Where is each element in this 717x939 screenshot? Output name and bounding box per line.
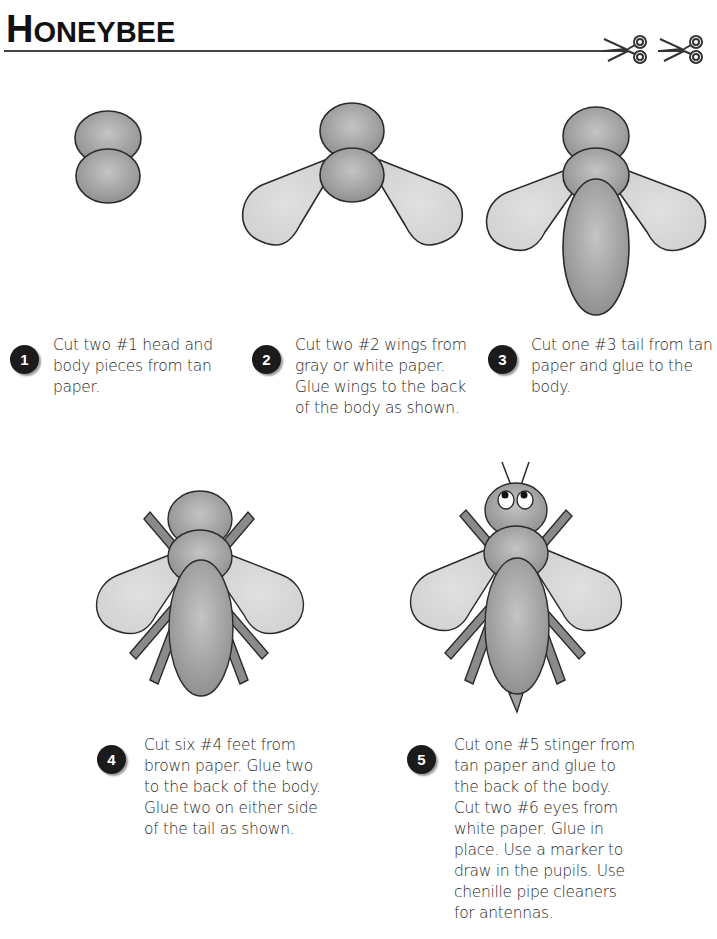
- stinger: [509, 693, 523, 712]
- step-instruction: Cut six #4 feet from brown paper. Glue t…: [144, 735, 321, 840]
- right-wing: [375, 160, 462, 245]
- tail-piece: [169, 560, 233, 696]
- step-number-badge: 3: [488, 345, 517, 374]
- step-3: 3 Cut one #3 tail from tan paper and glu…: [488, 335, 713, 398]
- step-number-badge: 4: [97, 745, 126, 774]
- step-instruction: Cut one #5 stinger from tan paper and gl…: [454, 735, 635, 924]
- figure-step-5: [400, 450, 640, 720]
- step-2: 2 Cut two #2 wings from gray or white pa…: [252, 335, 466, 419]
- page-title: HONEYBEE: [6, 8, 175, 51]
- title-rule: [4, 50, 604, 52]
- step-4: 4 Cut six #4 feet from brown paper. Glue…: [97, 735, 321, 840]
- pupil: [502, 492, 509, 499]
- scissors-icon: [600, 34, 654, 64]
- step-instruction: Cut two #1 head and body pieces from tan…: [53, 335, 213, 398]
- pupil: [521, 492, 528, 499]
- body-piece: [76, 149, 140, 203]
- step-5: 5 Cut one #5 stinger from tan paper and …: [407, 735, 635, 924]
- figure-step-4: [85, 460, 320, 700]
- figure-step-2: [235, 80, 470, 260]
- tail-piece: [563, 179, 629, 315]
- scissors-icon: [656, 34, 710, 64]
- figure-step-1: [60, 80, 180, 210]
- step-1: 1 Cut two #1 head and body pieces from t…: [10, 335, 213, 398]
- step-number-badge: 2: [252, 345, 281, 374]
- tail-piece: [485, 558, 549, 694]
- step-number-badge: 1: [10, 345, 39, 374]
- step-number-badge: 5: [407, 745, 436, 774]
- step-instruction: Cut two #2 wings from gray or white pape…: [295, 335, 466, 419]
- figure-step-3: [475, 80, 717, 320]
- step-instruction: Cut one #3 tail from tan paper and glue …: [531, 335, 713, 398]
- left-wing: [243, 160, 330, 245]
- body-piece: [320, 148, 384, 202]
